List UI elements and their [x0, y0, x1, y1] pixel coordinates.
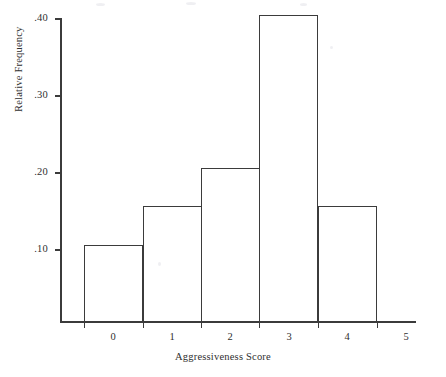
- y-tick-4: [55, 18, 60, 20]
- y-axis-line: [60, 18, 62, 322]
- histogram-figure: .40 .30 .20 .10 0 1 2 3 4 5 Aggressivene…: [0, 0, 446, 377]
- y-axis-title: Relative Frequency: [13, 0, 24, 112]
- scan-artifact: [96, 3, 105, 6]
- x-tick-edge-0: [84, 322, 85, 328]
- x-tick-edge-5: [377, 322, 378, 328]
- x-tick-edge-3: [259, 322, 260, 328]
- x-axis-title: Aggressiveness Score: [0, 351, 446, 362]
- x-tick-label-1: 1: [161, 331, 183, 343]
- x-tick-label-5: 5: [395, 331, 417, 343]
- x-tick-label-3: 3: [278, 331, 300, 343]
- y-tick-label-2: .20: [34, 167, 48, 178]
- scan-artifact: [300, 3, 307, 6]
- bar-score-2: [201, 168, 260, 322]
- x-tick-label-2: 2: [219, 331, 241, 343]
- y-tick-3: [55, 95, 60, 97]
- x-tick-label-0: 0: [102, 331, 124, 343]
- plot-area: .40 .30 .20 .10 0 1 2 3 4 5 Aggressivene…: [0, 0, 446, 377]
- x-tick-edge-2: [201, 322, 202, 328]
- scan-artifact: [186, 2, 196, 5]
- bar-score-0: [84, 245, 143, 322]
- y-tick-2: [55, 172, 60, 174]
- y-tick-label-1: .10: [34, 244, 48, 255]
- x-tick-label-4: 4: [336, 331, 358, 343]
- bar-score-3: [259, 15, 318, 322]
- x-tick-edge-4: [318, 322, 319, 328]
- bar-score-4: [318, 206, 377, 322]
- bar-score-1: [143, 206, 202, 322]
- scan-artifact: [330, 46, 333, 49]
- y-tick-label-3: .30: [34, 90, 48, 101]
- y-tick-1: [55, 249, 60, 251]
- x-tick-edge-1: [143, 322, 144, 328]
- y-tick-label-4: .40: [34, 13, 48, 24]
